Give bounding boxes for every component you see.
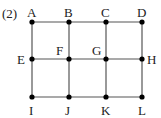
label-A: A [27, 6, 36, 19]
label-F: F [56, 44, 63, 57]
grid-diagram: (2) A B C D E F G H I J K L [0, 0, 161, 118]
label-K: K [101, 104, 110, 117]
label-I: I [29, 104, 33, 117]
point-H-dot [139, 56, 144, 61]
point-D-dot [139, 19, 144, 24]
point-C-dot [103, 19, 108, 24]
point-K-dot [103, 94, 108, 99]
point-J-dot [66, 94, 71, 99]
label-D: D [137, 6, 146, 19]
point-I-dot [29, 94, 34, 99]
point-L-dot [139, 94, 144, 99]
problem-number: (2) [2, 7, 17, 20]
point-F-dot [66, 56, 71, 61]
point-A-dot [29, 19, 34, 24]
point-B-dot [66, 19, 71, 24]
label-L: L [138, 104, 146, 117]
label-C: C [101, 6, 110, 19]
label-B: B [64, 6, 73, 19]
point-G-dot [103, 56, 108, 61]
label-E: E [17, 53, 25, 66]
point-E-dot [29, 56, 34, 61]
label-H: H [147, 53, 156, 66]
label-J: J [65, 104, 70, 117]
label-G: G [92, 44, 101, 57]
